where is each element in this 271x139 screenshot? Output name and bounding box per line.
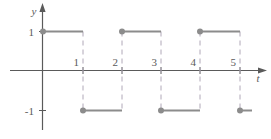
endpoint-dot-6 bbox=[237, 108, 243, 114]
endpoint-dot-2 bbox=[80, 108, 86, 114]
endpoint-dot-5 bbox=[197, 29, 203, 35]
square-wave-plot: 1 -1 1 2 3 4 5 y t bbox=[0, 0, 271, 139]
x-tick-label-5: 5 bbox=[231, 56, 237, 68]
x-tick-label-2: 2 bbox=[113, 56, 119, 68]
x-tick-label-4: 4 bbox=[191, 56, 197, 68]
y-tick-label-neg1: -1 bbox=[25, 105, 34, 117]
y-tick-label-1: 1 bbox=[29, 26, 35, 38]
y-axis-arrow-icon bbox=[39, 3, 45, 12]
y-axis-label: y bbox=[31, 5, 37, 17]
x-tick-label-1: 1 bbox=[74, 56, 80, 68]
x-axis-label: t bbox=[256, 72, 260, 84]
x-tick-label-3: 3 bbox=[152, 56, 158, 68]
endpoint-dot-1 bbox=[40, 29, 46, 35]
endpoint-dot-4 bbox=[158, 108, 164, 114]
endpoint-dot-3 bbox=[119, 29, 125, 35]
